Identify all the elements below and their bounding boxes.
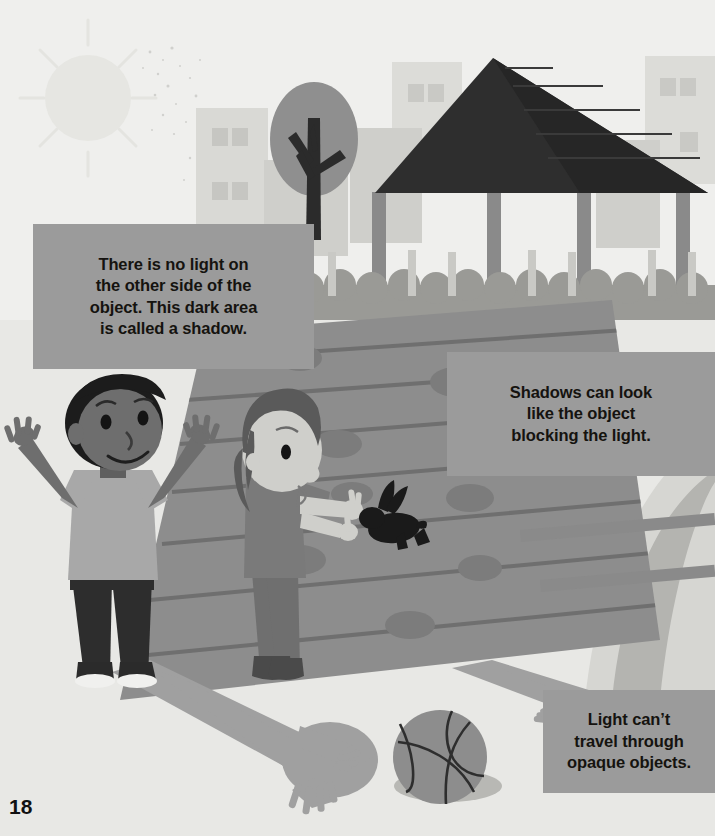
- caption-text: There is no light on the other side of t…: [47, 254, 300, 340]
- caption-opaque-objects: Light can’t travel through opaque object…: [543, 690, 715, 793]
- boy-shirt: [60, 470, 168, 580]
- caption-text: Shadows can look like the object blockin…: [459, 382, 703, 446]
- page-number: 18: [9, 795, 32, 819]
- caption-text: Light can’t travel through opaque object…: [551, 709, 707, 773]
- textbook-page: There is no light on the other side of t…: [0, 0, 715, 836]
- caption-shadow-definition: There is no light on the other side of t…: [33, 224, 314, 369]
- girl-shoes: [252, 656, 304, 680]
- caption-shadow-shape: Shadows can look like the object blockin…: [447, 352, 715, 476]
